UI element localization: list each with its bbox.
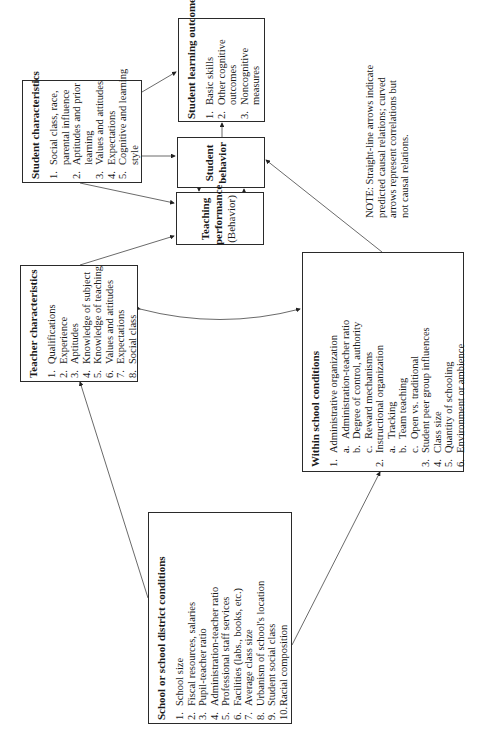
within-school-conditions-box: Within school conditions 1.Administrativ… — [302, 252, 464, 472]
teaching-performance-box: Teaching performance (Behavior) — [176, 192, 264, 245]
list-item: b.Degree of control, authority — [351, 262, 363, 467]
list-item: b.Team teaching — [397, 262, 409, 467]
school-district-conditions-list: 1.School size 2.Fiscal resources, salari… — [174, 520, 289, 720]
student-learning-outcomes-title: Student learning outcomes — [185, 23, 198, 119]
list-item: 3.Student peer group influences — [420, 262, 432, 467]
list-item: 9.Student social class — [266, 520, 278, 720]
list-item: 2.Instructional organization — [374, 262, 386, 467]
note-line: not causal relations. — [399, 65, 411, 218]
list-item: 4.Expectations — [106, 87, 118, 179]
note-line: predicted causal relations; curved — [376, 65, 388, 218]
list-item: 1.Social class, race, — [48, 87, 60, 179]
list-item: 6.Facilities (labs., books, etc.) — [232, 520, 244, 720]
list-item: measures — [250, 23, 262, 119]
student-behavior-box: Student behavior — [177, 137, 265, 188]
list-item: a.Administration-teacher ratio — [340, 262, 352, 467]
list-item: a.Tracking — [386, 262, 398, 467]
list-item: 5.Knowledge of teaching — [92, 270, 104, 378]
teacher-characteristics-title: Teacher characteristics — [27, 270, 40, 378]
list-item: c.Open vs. traditional — [409, 262, 421, 467]
student-characteristics-title: Student characteristics — [29, 87, 42, 179]
note-line: NOTE: Straight-line arrows indicate — [364, 65, 376, 218]
list-item: 7.Average class size — [243, 520, 255, 720]
list-item: 1.School size — [174, 520, 186, 720]
teacher-characteristics-list: 1.Qualifications 2.Experience 3.Aptitude… — [46, 270, 138, 378]
within-school-conditions-title: Within school conditions — [309, 262, 322, 467]
list-item: 10.Racial composition — [278, 520, 290, 720]
list-item: outcomes — [227, 23, 239, 119]
list-item: 3.Noncognitive — [239, 23, 251, 119]
teaching-performance-line1: Teaching — [199, 193, 212, 245]
list-item: 4.Class size — [432, 262, 444, 467]
list-item: 4.Knowledge of subject — [81, 270, 93, 378]
list-item: 5.Professional staff services — [220, 520, 232, 720]
school-district-conditions-title: School or school district conditions — [155, 520, 168, 720]
list-item: 2.Fiscal resources, salaries — [186, 520, 198, 720]
list-item: 8.Social class — [127, 270, 139, 378]
list-item: style — [129, 87, 141, 179]
list-item: 5.Quantity of schooling — [443, 262, 455, 467]
student-behavior-line1: Student — [203, 140, 216, 186]
list-item: 1.Basic skills — [204, 23, 216, 119]
list-item: 1.Qualifications — [46, 270, 58, 378]
list-item: parental influence — [60, 87, 72, 179]
list-item: 4.Administration-teacher ratio — [209, 520, 221, 720]
list-item: 2.Other cognitive — [216, 23, 228, 119]
list-item: 2.Experience — [58, 270, 70, 378]
list-item: 6.Values and attitudes — [104, 270, 116, 378]
list-item: 3.Values and attitudes — [94, 87, 106, 179]
student-behavior-line2: behavior — [216, 140, 229, 186]
student-learning-outcomes-list: 1.Basic skills 2.Other cognitive outcome… — [204, 23, 262, 119]
list-item: 5.Cognitive and learning — [117, 87, 129, 179]
student-characteristics-list: 1.Social class, race, parental influence… — [48, 87, 140, 179]
list-item: 6.Environment or ambience — [455, 262, 467, 467]
list-item: 8.Urbanism of school's location — [255, 520, 267, 720]
teaching-performance-line2: performance — [212, 193, 225, 245]
list-item: 3.Aptitudes — [69, 270, 81, 378]
student-characteristics-box: Student characteristics 1.Social class, … — [22, 80, 142, 183]
list-item: 3.Pupil-teacher ratio — [197, 520, 209, 720]
student-learning-outcomes-box: Student learning outcomes 1.Basic skills… — [178, 18, 265, 122]
list-item: 1.Administrative organization — [328, 262, 340, 467]
teaching-performance-line3: (Behavior) — [225, 193, 238, 245]
teacher-characteristics-box: Teacher characteristics 1.Qualifications… — [20, 265, 138, 382]
diagram-note: NOTE: Straight-line arrows indicate pred… — [364, 65, 410, 218]
within-school-conditions-list: 1.Administrative organization a.Administ… — [328, 262, 466, 467]
list-item: 7.Expectations — [115, 270, 127, 378]
note-line: arrows represent correlations but — [387, 65, 399, 218]
list-item: 2.Aptitudes and prior — [71, 87, 83, 179]
list-item: learning — [83, 87, 95, 179]
list-item: c.Reward mechanisms — [363, 262, 375, 467]
school-district-conditions-box: School or school district conditions 1.S… — [148, 512, 292, 724]
